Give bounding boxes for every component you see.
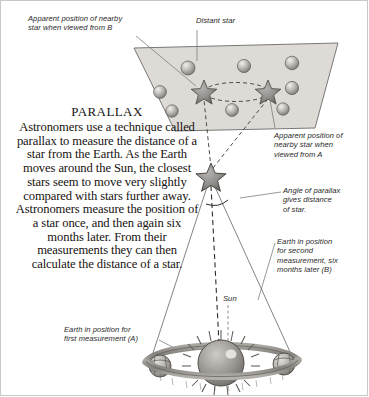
distant-star xyxy=(285,81,298,94)
label-first-measurement: Earth in position for first measurement … xyxy=(64,325,189,344)
label-angle-of-parallax: Angle of parallax gives distance of star… xyxy=(283,186,367,214)
label-apparent-position-a: Apparent position of nearby star when vi… xyxy=(274,131,366,159)
label-distant-star: Distant star xyxy=(196,16,286,25)
distant-star xyxy=(181,61,195,75)
distant-star xyxy=(285,56,299,70)
label-apparent-position-b: Apparent position of nearby star when vi… xyxy=(28,14,178,33)
distant-star xyxy=(154,86,167,99)
parallax-angle-arc xyxy=(206,200,228,205)
sun-highlight xyxy=(226,350,237,359)
label-second-measurement: Earth in position for second measurement… xyxy=(277,237,367,275)
page-title: Parallax xyxy=(14,100,200,120)
parallax-diagram: Parallax Astronomers use a technique cal… xyxy=(0,0,369,397)
distant-star xyxy=(237,59,250,72)
distant-star xyxy=(226,104,239,117)
distant-star xyxy=(277,103,289,115)
leader-second-measurement xyxy=(258,243,275,300)
star-sun-axis xyxy=(211,186,219,344)
article-text-block: Parallax Astronomers use a technique cal… xyxy=(14,100,200,272)
leader-angle xyxy=(240,192,281,198)
body-text: Astronomers use a technique called paral… xyxy=(14,121,200,272)
label-sun: Sun xyxy=(223,294,253,303)
